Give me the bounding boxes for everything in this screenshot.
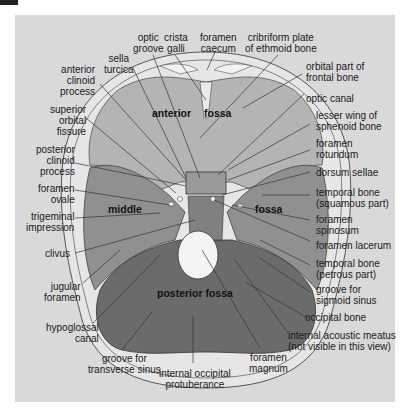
label-foramen-lacerum: foramen lacerum <box>316 240 391 251</box>
label-jugular-foramen: jugular foramen <box>44 281 81 303</box>
label-sella-turcica: sella turcica <box>104 53 133 75</box>
label-anterior-clinoid: anterior clinoid process <box>60 64 95 97</box>
foramen-lacerum-left <box>178 197 183 202</box>
label-cribriform-plate: cribriform plate of ethmoid bone <box>245 32 317 54</box>
foramen-ovale-left <box>168 202 174 206</box>
label-foramen-caecum: foramen caecum <box>200 32 237 54</box>
label-foramen-ovale: foramen ovale <box>38 183 75 205</box>
region-middle-fossa: fossa <box>255 203 282 215</box>
sella-turcica <box>186 172 226 194</box>
label-groove-sigmoid: groove for sigmoid sinus <box>316 284 377 306</box>
foramen-magnum <box>178 231 218 279</box>
label-foramen-magnum: foramen magnum <box>249 352 288 374</box>
label-posterior-clinoid: posterior clinoid process <box>36 144 75 177</box>
label-internal-acoustic-meatus: internal acoustic meatus (not visible in… <box>288 330 396 352</box>
label-optic-canal: optic canal <box>306 93 354 104</box>
region-anterior: anterior <box>152 107 191 119</box>
label-crista-galli: crista galli <box>164 32 188 54</box>
label-groove-transverse: groove for transverse sinus <box>88 353 161 375</box>
label-occipital-bone: occipital bone <box>305 312 366 323</box>
label-optic-groove: optic groove <box>133 32 164 54</box>
label-trigeminal-impression: trigeminal impression <box>26 211 74 233</box>
label-foramen-rotundum: foramen rotundum <box>316 138 358 160</box>
label-foramen-spinosum: foramen spinosum <box>316 214 359 236</box>
region-anterior-fossa: fossa <box>204 107 231 119</box>
label-temporal-petrous: temporal bone (petrous part) <box>316 258 380 280</box>
label-lesser-wing: lesser wing of sphenoid bone <box>316 110 382 132</box>
label-internal-occipital: internal occipital protuberance <box>159 368 231 390</box>
region-middle: middle <box>108 203 142 215</box>
label-temporal-squamous: temporal bone (squamous part) <box>316 187 389 209</box>
region-posterior-fossa: posterior fossa <box>157 287 233 299</box>
label-superior-orbital-fissure: superior orbital fissure <box>50 104 86 137</box>
label-clivus: clivus <box>45 248 70 259</box>
foramen-lacerum-right <box>211 197 216 202</box>
label-orbital-part: orbital part of frontal bone <box>306 61 364 83</box>
label-hypoglossal-canal: hypoglossal canal <box>46 322 99 344</box>
label-dorsum-sellae: dorsum sellae <box>316 167 378 178</box>
